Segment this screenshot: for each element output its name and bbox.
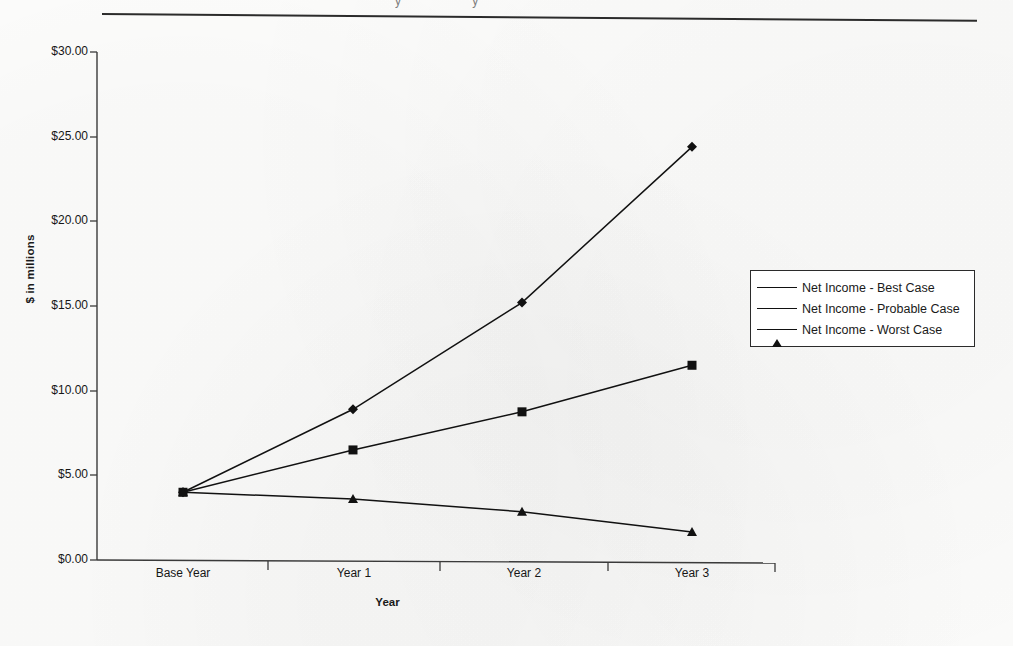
legend-item-best-case: Net Income - Best Case [757, 277, 968, 298]
legend-item-probable-case: Net Income - Probable Case [757, 298, 968, 319]
legend-line [757, 308, 797, 309]
line-chart: y y $ in millions $30.00 $25.00 $20.00 $… [0, 0, 1013, 646]
y-axis-ticks [90, 52, 97, 560]
series-line [183, 147, 692, 492]
legend-label: Net Income - Probable Case [802, 302, 960, 316]
legend-key-triangle [757, 324, 797, 336]
x-axis-line [97, 560, 775, 563]
triangle-marker-icon [773, 326, 783, 340]
series-line [183, 492, 692, 532]
legend-line [757, 287, 797, 288]
series-line [183, 365, 692, 492]
chart-legend: Net Income - Best Case Net Income - Prob… [750, 270, 975, 347]
square-marker-icon [688, 361, 697, 370]
diamond-marker-icon [348, 404, 358, 414]
legend-label: Net Income - Worst Case [802, 323, 942, 337]
square-marker-icon [349, 445, 358, 454]
square-marker-icon [518, 407, 527, 416]
legend-item-worst-case: Net Income - Worst Case [757, 319, 968, 340]
series-diamond [178, 142, 697, 497]
legend-key-square [757, 303, 797, 315]
axis-lines [97, 52, 775, 563]
data-series-layer [178, 142, 697, 536]
legend-key-diamond [757, 282, 797, 294]
series-square [179, 361, 697, 497]
legend-label: Net Income - Best Case [802, 281, 935, 295]
series-triangle [178, 487, 697, 536]
